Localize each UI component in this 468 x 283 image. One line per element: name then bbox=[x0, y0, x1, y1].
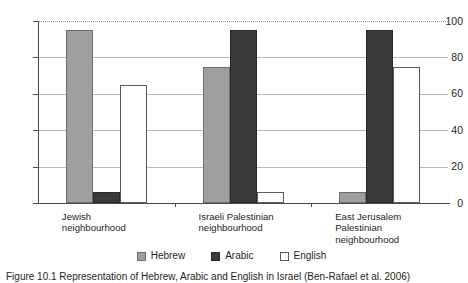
bar-english-group-3 bbox=[393, 67, 420, 204]
plot-area bbox=[38, 21, 448, 203]
bar-english-group-1 bbox=[120, 85, 147, 203]
legend-label: Arabic bbox=[225, 251, 253, 261]
bar-arabic-group-2 bbox=[230, 30, 257, 203]
bar-arabic-group-3 bbox=[366, 30, 393, 203]
legend-swatch-english-icon bbox=[280, 252, 289, 261]
category-label-2: Israeli Palestinian neighbourhood bbox=[199, 211, 346, 234]
bar-english-group-2 bbox=[257, 192, 284, 203]
legend-label: English bbox=[294, 251, 327, 261]
x-axis-line bbox=[38, 203, 450, 204]
legend-item-arabic: Arabic bbox=[211, 251, 253, 261]
gridline bbox=[38, 21, 448, 22]
legend-item-english: English bbox=[280, 251, 327, 261]
bar-hebrew-group-2 bbox=[203, 67, 230, 204]
y-axis-line bbox=[38, 21, 39, 204]
legend-label: Hebrew bbox=[151, 251, 185, 261]
legend-swatch-arabic-icon bbox=[211, 252, 220, 261]
category-label-1: Jewish neighbourhood bbox=[62, 211, 209, 234]
figure-caption: Figure 10.1 Representation of Hebrew, Ar… bbox=[6, 271, 461, 283]
bar-arabic-group-1 bbox=[93, 192, 120, 203]
legend-swatch-hebrew-icon bbox=[137, 252, 146, 261]
bar-hebrew-group-1 bbox=[66, 30, 93, 203]
category-label-3: East Jerusalem Palestinian neighbourhood bbox=[335, 211, 468, 245]
x-tick-mark bbox=[311, 203, 312, 207]
chart-legend: HebrewArabicEnglish bbox=[0, 251, 463, 261]
bar-hebrew-group-3 bbox=[339, 192, 366, 203]
x-tick-mark bbox=[175, 203, 176, 207]
legend-item-hebrew: Hebrew bbox=[137, 251, 185, 261]
